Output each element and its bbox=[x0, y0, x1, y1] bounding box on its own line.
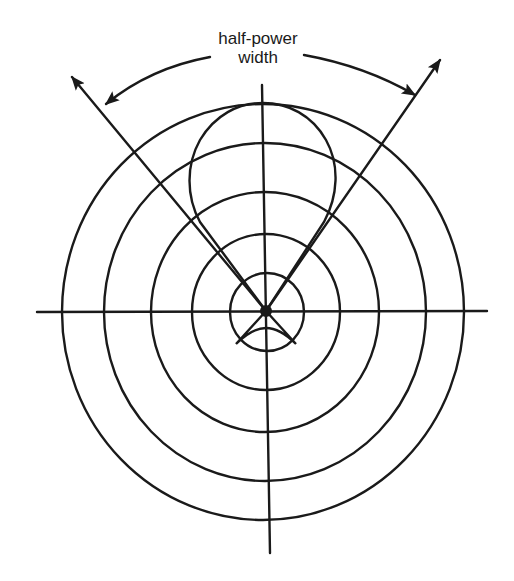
half-power-width-label: half-power width bbox=[198, 29, 318, 67]
center-dot bbox=[260, 305, 272, 317]
label-line-1: half-power bbox=[198, 29, 318, 48]
half-power-line-left bbox=[72, 77, 266, 311]
vertical-axis bbox=[262, 85, 270, 553]
antenna-radiation-pattern-diagram bbox=[0, 0, 514, 581]
half-power-arc-right bbox=[304, 55, 415, 95]
label-line-2: width bbox=[198, 48, 318, 67]
half-power-line-right bbox=[266, 60, 440, 311]
half-power-arc-left bbox=[106, 57, 210, 104]
